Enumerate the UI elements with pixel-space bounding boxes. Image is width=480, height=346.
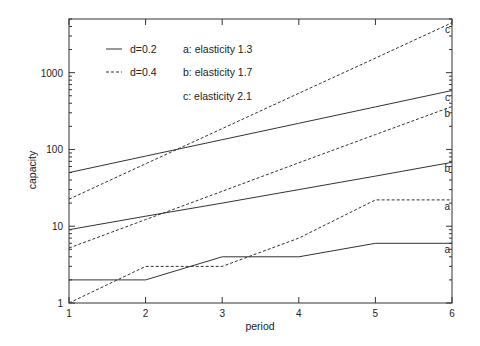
legend-dashed-label: d=0.4 xyxy=(130,66,157,78)
series-end-label: a xyxy=(444,201,450,212)
plot-frame xyxy=(69,19,452,303)
chart-container: aabbcc 1101001000 123456 period capacity… xyxy=(0,0,480,346)
legend-key-b: b: elasticity 1.7 xyxy=(183,66,253,78)
y-tick-label: 100 xyxy=(46,144,63,155)
y-tick-label: 1000 xyxy=(41,68,64,79)
series-end-label: c xyxy=(445,92,450,103)
x-tick-label: 3 xyxy=(219,308,225,319)
series-lines xyxy=(69,23,452,303)
x-tick-label: 1 xyxy=(66,308,72,319)
x-tick-label: 4 xyxy=(296,308,302,319)
legend: d=0.2 d=0.4 a: elasticity 1.3 b: elastic… xyxy=(106,43,253,102)
series-line xyxy=(69,243,452,280)
x-axis-title: period xyxy=(245,320,274,332)
y-tick-label: 10 xyxy=(52,221,64,232)
series-end-labels: aabbcc xyxy=(444,24,450,256)
y-tick-label: 1 xyxy=(57,298,63,309)
series-line xyxy=(69,91,452,173)
x-tick-label: 2 xyxy=(143,308,149,319)
legend-solid-label: d=0.2 xyxy=(130,43,157,55)
x-axis: 123456 xyxy=(66,19,455,319)
legend-key-c: c: elasticity 2.1 xyxy=(183,90,252,102)
y-axis: 1101001000 xyxy=(41,19,452,309)
legend-key-a: a: elasticity 1.3 xyxy=(183,43,253,55)
series-end-label: c xyxy=(445,24,450,35)
series-line xyxy=(69,200,452,303)
line-chart: aabbcc 1101001000 123456 period capacity… xyxy=(0,0,480,346)
x-tick-label: 5 xyxy=(373,308,379,319)
series-line xyxy=(69,107,452,249)
y-axis-title: capacity xyxy=(26,150,38,189)
x-tick-label: 6 xyxy=(449,308,455,319)
series-line xyxy=(69,162,452,229)
